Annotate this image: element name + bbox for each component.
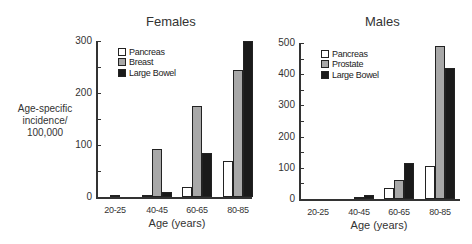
bar-prostate (435, 46, 445, 199)
legend-label: Pancreas (332, 49, 368, 59)
y-axis-title: Age-specific incidence/ 100,000 (2, 103, 88, 139)
bar-pancreas (142, 195, 152, 197)
y-tick (300, 137, 304, 138)
bar-large-bowel (202, 153, 212, 197)
legend-item: Breast (118, 57, 153, 68)
y-tick (300, 105, 304, 106)
y-tick (97, 197, 101, 198)
legend-item: Large Bowel (118, 67, 176, 78)
y-tick-label: 500 (267, 37, 295, 48)
chart-title-females: Females (146, 14, 196, 29)
x-axis-title: Age (years) (339, 219, 419, 231)
bar-prostate (394, 180, 404, 199)
bar-prostate (354, 197, 364, 199)
legend-item: Pancreas (118, 46, 165, 57)
x-axis-title: Age (years) (137, 217, 217, 229)
x-axis (96, 197, 252, 199)
bar-large-bowel (162, 192, 172, 197)
y-tick (97, 41, 101, 42)
legend-swatch (321, 50, 329, 58)
y-tick (300, 199, 304, 200)
y-tick-label: 400 (267, 68, 295, 79)
x-tick-label: 60-65 (381, 207, 417, 217)
bar-large-bowel (404, 163, 414, 199)
y-tick (300, 121, 304, 122)
y-tick (300, 183, 304, 184)
bar-pancreas (425, 166, 435, 199)
legend-item: Large Bowel (321, 69, 379, 80)
legend-swatch (118, 69, 126, 77)
y-tick-label: 100 (64, 139, 92, 150)
x-tick-label: 40-45 (139, 205, 175, 215)
y-tick (97, 119, 101, 120)
y-tick-label: 300 (267, 99, 295, 110)
y-tick-label: 200 (64, 87, 92, 98)
legend-label: Pancreas (129, 47, 165, 57)
y-axis-title-line: incidence/ (2, 115, 88, 127)
x-tick-label: 20-25 (300, 207, 336, 217)
legend-item: Prostate (321, 59, 363, 70)
y-tick (97, 93, 101, 94)
bar-pancreas (182, 187, 192, 197)
x-axis (299, 199, 460, 201)
x-tick-label: 20-25 (97, 205, 133, 215)
x-tick-label: 80-85 (220, 205, 256, 215)
legend-swatch (118, 58, 126, 66)
bar-pancreas (223, 161, 233, 197)
chart-title-males: Males (365, 14, 400, 29)
x-tick-label: 80-85 (422, 207, 458, 217)
y-tick (97, 171, 101, 172)
bar-large-bowel (445, 68, 455, 199)
legend-swatch (321, 60, 329, 68)
x-tick-label: 40-45 (341, 207, 377, 217)
y-tick (300, 168, 304, 169)
y-axis-title-line: 100,000 (2, 127, 88, 139)
bar-breast (110, 195, 120, 197)
y-tick-label: 200 (267, 131, 295, 142)
legend-swatch (118, 48, 126, 56)
legend-label: Breast (129, 57, 153, 67)
y-tick-label: 0 (64, 191, 92, 202)
y-tick-label: 300 (64, 35, 92, 46)
bar-pancreas (384, 188, 394, 199)
legend-label: Prostate (332, 59, 363, 69)
legend-item: Pancreas (321, 48, 368, 59)
legend-swatch (321, 71, 329, 79)
y-tick (97, 67, 101, 68)
bar-breast (233, 70, 243, 197)
bar-breast (192, 106, 202, 197)
legend-label: Large Bowel (332, 70, 379, 80)
y-tick (300, 43, 304, 44)
y-axis-title-line: Age-specific (2, 103, 88, 115)
y-tick (300, 152, 304, 153)
y-tick-label: 100 (267, 162, 295, 173)
x-tick-label: 60-65 (179, 205, 215, 215)
y-tick (300, 59, 304, 60)
y-tick (300, 74, 304, 75)
y-tick-label: 0 (267, 193, 295, 204)
legend-label: Large Bowel (129, 68, 176, 78)
bar-breast (152, 149, 162, 197)
y-tick (97, 145, 101, 146)
bar-large-bowel (243, 41, 253, 197)
y-tick (300, 90, 304, 91)
bar-large-bowel (364, 195, 374, 199)
